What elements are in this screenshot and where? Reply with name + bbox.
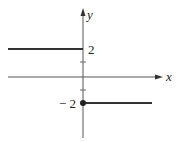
x-axis [8, 75, 163, 80]
piecewise-graph: x y 2 − 2 [0, 0, 178, 142]
x-axis-label: x [165, 69, 172, 84]
y-axis-label: y [85, 7, 93, 22]
y-axis [81, 8, 86, 138]
y-axis-arrow-icon [81, 8, 86, 16]
tick-label-neg2: − 2 [59, 96, 76, 111]
tick-label-2: 2 [88, 42, 95, 57]
closed-dot-icon [80, 100, 86, 106]
x-axis-arrow-icon [155, 75, 163, 80]
